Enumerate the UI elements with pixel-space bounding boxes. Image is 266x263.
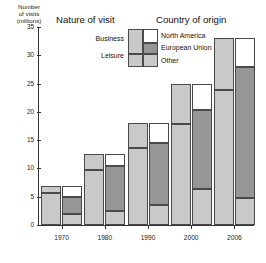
y-tick-label-20: 20 <box>27 109 34 115</box>
panel-header-country-of-origin: Country of origin <box>156 15 226 25</box>
segment-1970-european-union <box>62 197 82 214</box>
x-tick-1980 <box>105 225 106 229</box>
y-tick-label-0: 0 <box>30 222 34 228</box>
segment-1980-business <box>84 154 104 169</box>
segment-1990-other <box>149 205 169 225</box>
segment-1990-north-america <box>149 123 169 143</box>
bar-2006-country <box>235 38 255 225</box>
panel-header-nature-of-visit: Nature of visit <box>56 15 115 25</box>
bar-2006-nature <box>214 38 234 225</box>
bar-group-1990: 1990 <box>128 26 169 225</box>
y-axis-title-line-2: of visits <box>6 10 52 17</box>
segment-1980-other <box>105 211 125 225</box>
segment-2000-european-union <box>192 110 212 189</box>
y-tick-label-30: 30 <box>27 52 34 58</box>
bar-1990-country <box>149 123 169 225</box>
y-tick-label-35: 35 <box>27 24 34 30</box>
y-tick-label-25: 25 <box>27 80 34 86</box>
bar-group-2006: 2006 <box>214 26 255 225</box>
segment-1990-business <box>128 123 148 147</box>
chart-container: Number of visits (millions) Nature of vi… <box>0 0 266 263</box>
y-axis-title: Number of visits (millions) <box>6 3 52 25</box>
x-tick-2006 <box>234 225 235 229</box>
segment-1980-leisure <box>84 170 104 225</box>
segment-2000-leisure <box>171 124 191 225</box>
segment-1970-north-america <box>62 186 82 197</box>
segment-2000-business <box>171 84 191 125</box>
x-axis-line <box>38 225 254 226</box>
bar-1970-nature <box>41 186 61 225</box>
bar-group-1980: 1980 <box>84 26 125 225</box>
x-axis-label-2000: 2000 <box>184 234 199 241</box>
segment-2006-north-america <box>235 38 255 66</box>
segment-1980-north-america <box>105 154 125 165</box>
y-axis-title-line-1: Number <box>6 3 52 10</box>
segment-1970-other <box>62 214 82 225</box>
x-axis-label-1970: 1970 <box>54 234 69 241</box>
segment-1990-leisure <box>128 148 148 226</box>
segment-1980-european-union <box>105 166 125 212</box>
y-tick-0: 0 <box>37 225 41 226</box>
bar-1980-nature <box>84 154 104 225</box>
bar-group-2000: 2000 <box>171 26 212 225</box>
bar-1980-country <box>105 154 125 225</box>
bar-1990-nature <box>128 123 148 225</box>
bar-2000-nature <box>171 84 191 225</box>
bar-group-1970: 1970 <box>41 26 82 225</box>
segment-1970-leisure <box>41 193 61 225</box>
segment-2006-leisure <box>214 90 234 225</box>
x-axis-label-1990: 1990 <box>141 234 156 241</box>
segment-1990-european-union <box>149 143 169 205</box>
y-tick-label-10: 10 <box>27 165 34 171</box>
bar-1970-country <box>62 186 82 225</box>
plot-area: 05101520253035 19701980199020002006 <box>38 27 254 226</box>
segment-1970-business <box>41 186 61 193</box>
segment-2006-european-union <box>235 67 255 199</box>
x-tick-1990 <box>148 225 149 229</box>
x-axis-label-1980: 1980 <box>97 234 112 241</box>
segment-2006-other <box>235 198 255 225</box>
x-tick-2000 <box>191 225 192 229</box>
x-axis-label-2006: 2006 <box>227 234 242 241</box>
segment-2000-other <box>192 189 212 225</box>
x-tick-1970 <box>62 225 63 229</box>
y-tick-label-5: 5 <box>30 194 34 200</box>
segment-2000-north-america <box>192 84 212 111</box>
bar-2000-country <box>192 84 212 225</box>
segment-2006-business <box>214 38 234 90</box>
y-tick-label-15: 15 <box>27 137 34 143</box>
